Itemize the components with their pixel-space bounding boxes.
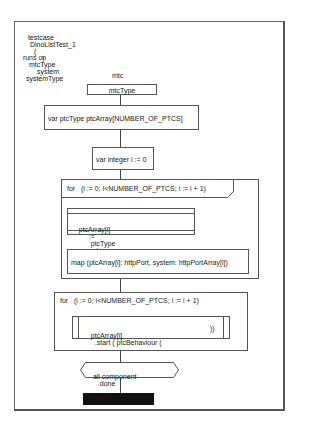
start-statement: ptcArray[i] .start ( ptcBehaviour ( )) bbox=[72, 316, 230, 339]
start-close: )) bbox=[210, 325, 215, 332]
start-target: ptcArray[i] bbox=[91, 332, 123, 339]
map-text: map (ptcArray[i]: httpPort, system: http… bbox=[71, 259, 228, 266]
create-type: ptcType bbox=[91, 240, 116, 247]
start-text: ptcArray[i] .start ( ptcBehaviour ( bbox=[83, 325, 162, 353]
create-top-band bbox=[68, 213, 194, 214]
start-left-bar bbox=[78, 317, 79, 338]
create-statement: ptcArray[i] := ptcType .create bbox=[67, 208, 195, 235]
done-subject: all component bbox=[93, 373, 137, 380]
start-right-bar bbox=[223, 317, 224, 338]
map-statement: map (ptcArray[i]: httpPort, system: http… bbox=[67, 249, 249, 274]
create-assign: := bbox=[89, 233, 95, 240]
start-op: .start ( ptcBehaviour ( bbox=[95, 339, 162, 346]
done-op: .done bbox=[98, 380, 116, 387]
for-loop-2-header: for (i := 0; i<NUMBER_OF_PTCS; i := i + … bbox=[60, 297, 199, 304]
done-text: all component .done bbox=[89, 366, 136, 387]
create-target: ptcArray[i] bbox=[79, 226, 111, 233]
for-loop-1-header: for (i := 0; i<NUMBER_OF_PTCS; i := i + … bbox=[67, 185, 206, 192]
terminator-block bbox=[83, 393, 154, 405]
